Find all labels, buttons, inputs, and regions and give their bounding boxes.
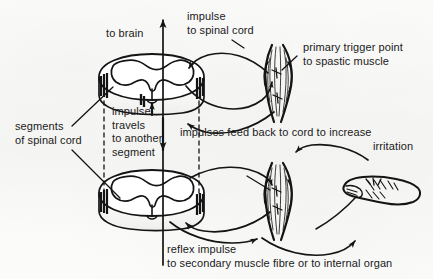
arrow-irritation-return bbox=[296, 145, 368, 160]
leader-impulse-stub bbox=[232, 40, 244, 48]
label-impulse-to-spinal-cord: impulse to spinal cord bbox=[187, 10, 254, 37]
organ-tail bbox=[316, 196, 357, 229]
arrow-cord-to-secondary bbox=[190, 167, 272, 185]
label-to-brain: to brain bbox=[106, 27, 144, 41]
muscle-upper-spastic bbox=[264, 45, 292, 122]
diagram-page: to brain impulse to spinal cord primary … bbox=[0, 0, 433, 279]
label-impulses-feed-back: impulses feed back to cord to increase bbox=[180, 126, 372, 140]
label-to-secondary-muscle: to secondary muscle fibre or to internal… bbox=[167, 257, 392, 271]
arrow-loop-to-organ bbox=[262, 238, 355, 255]
label-primary-trigger-point: primary trigger point to spastic muscle bbox=[303, 41, 403, 68]
cord-lower-segment bbox=[99, 170, 204, 231]
muscle-lower-secondary bbox=[264, 163, 292, 240]
label-segments-of-spinal-cord: segments of spinal cord bbox=[15, 120, 82, 147]
label-irritation: irritation bbox=[373, 140, 413, 154]
label-impulse-travels: impulse travels to another segment bbox=[112, 105, 163, 159]
internal-organ bbox=[343, 177, 420, 205]
label-reflex-impulse: reflex impulse bbox=[167, 243, 236, 257]
